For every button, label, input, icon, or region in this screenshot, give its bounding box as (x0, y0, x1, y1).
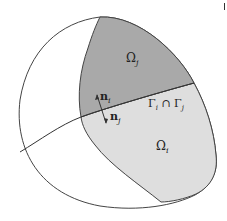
domain-decomposition-diagram: Ωj ni nj Γi ∩ Γj Ωi (0, 0, 227, 221)
interface-label: Γi ∩ Γj (148, 97, 185, 112)
corner-mark (224, 3, 225, 10)
